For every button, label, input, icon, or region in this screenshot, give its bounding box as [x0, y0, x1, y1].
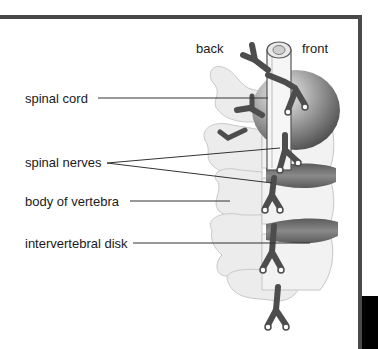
label-intervertebral-disk: intervertebral disk: [25, 236, 128, 251]
label-spinal-cord: spinal cord: [25, 91, 88, 106]
label-back: back: [196, 41, 223, 56]
label-spinal-nerves: spinal nerves: [25, 155, 102, 170]
label-body-of-vertebra: body of vertebra: [25, 194, 119, 209]
label-front: front: [302, 41, 328, 56]
disk-band-2: [266, 218, 338, 243]
top-disk-sphere: [252, 70, 340, 150]
